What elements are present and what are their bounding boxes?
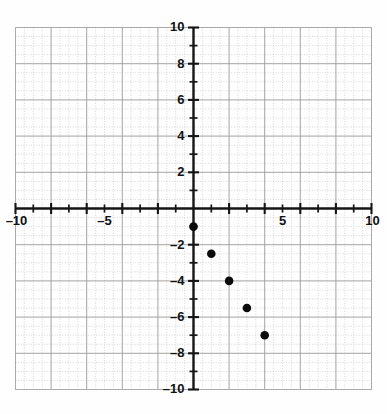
y-tick-label: 8 <box>177 56 184 71</box>
y-tick-label: –6 <box>170 309 184 324</box>
y-tick-label: 4 <box>177 128 185 143</box>
y-tick-label: –10 <box>163 381 185 396</box>
y-tick-label: –4 <box>170 273 185 288</box>
data-point <box>260 331 269 340</box>
coordinate-graph: 108642–2–4–6–8–10–10–5510 <box>0 0 387 414</box>
graph-canvas: 108642–2–4–6–8–10–10–5510 <box>0 0 387 414</box>
x-tick-label: 5 <box>279 213 286 228</box>
data-point <box>225 277 234 286</box>
x-tick-label: –10 <box>6 213 28 228</box>
y-tick-label: –8 <box>170 345 184 360</box>
y-tick-label: –2 <box>170 237 184 252</box>
data-point <box>243 304 252 313</box>
y-tick-label: 6 <box>177 92 184 107</box>
x-tick-label: –5 <box>97 213 111 228</box>
y-tick-label: 2 <box>177 164 184 179</box>
x-tick-label: 10 <box>365 213 379 228</box>
y-tick-label: 10 <box>170 19 184 34</box>
data-point <box>207 249 216 258</box>
data-point <box>189 222 198 231</box>
